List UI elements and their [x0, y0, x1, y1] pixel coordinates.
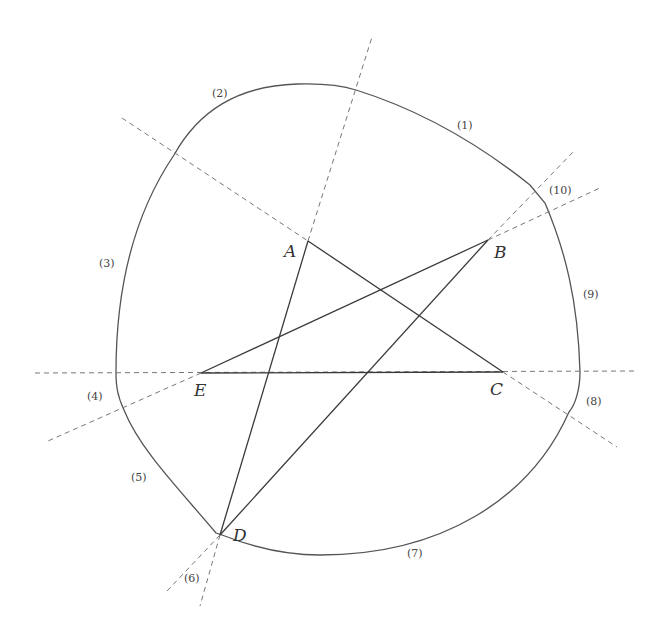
closed-curve: [116, 84, 580, 555]
pentagram: [201, 240, 503, 535]
vertex-label-C: C: [490, 379, 503, 399]
vertex-label-D: D: [232, 525, 247, 545]
arc-labels: (1) (2) (3) (4) (5) (6) (7) (8) (9) (10): [87, 87, 602, 585]
dashed-line-through-A-upward: [308, 37, 372, 241]
arc-label-2: (2): [212, 87, 228, 100]
geometry-figure: A B C D E (1) (2) (3) (4) (5) (6) (7) (8…: [0, 0, 656, 636]
arc-label-10: (10): [549, 184, 572, 197]
dashed-line-from-C-lower-right: [503, 372, 617, 447]
segment-B-D: [220, 240, 488, 535]
vertex-label-B: B: [493, 242, 507, 262]
vertex-label-A: A: [282, 241, 296, 261]
dashed-line-from-B-upper-right-shallow: [488, 187, 602, 240]
segment-A-C: [308, 241, 503, 372]
vertex-label-E: E: [193, 380, 207, 400]
arc-label-5: (5): [131, 471, 147, 484]
segment-E-B: [201, 240, 488, 373]
arc-label-4: (4): [87, 390, 103, 403]
dashed-line-from-D-down: [200, 535, 220, 606]
arc-label-6: (6): [184, 572, 200, 585]
dashed-extension-lines: [35, 37, 636, 606]
arc-label-9: (9): [583, 288, 599, 301]
arc-label-3: (3): [99, 257, 115, 270]
arc-label-7: (7): [407, 547, 423, 560]
arc-label-1: (1): [457, 119, 473, 132]
dashed-line-through-A-upper-left: [122, 118, 308, 241]
dashed-line-from-E-lower-left: [48, 373, 201, 441]
arc-label-8: (8): [586, 395, 602, 408]
segment-D-A: [220, 241, 308, 535]
